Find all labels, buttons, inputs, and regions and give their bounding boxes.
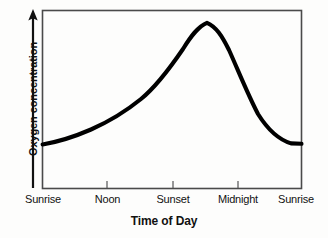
x-tick-label-sunrise-start: Sunrise: [12, 192, 74, 206]
oxygen-concentration-chart: Oxygen concentration Sunrise Noon Sunset…: [0, 0, 328, 238]
x-tick-label-midnight: Midnight: [205, 192, 271, 206]
oxygen-concentration-curve: [43, 23, 302, 145]
y-axis-label: Oxygen concentration: [26, 14, 40, 184]
x-tick-label-noon: Noon: [80, 192, 135, 206]
plot-frame: [43, 11, 302, 189]
x-tick-label-sunrise-end: Sunrise: [265, 192, 327, 206]
x-axis-label: Time of Day: [0, 214, 328, 229]
x-axis-ticks: [107, 181, 238, 188]
x-tick-label-sunset: Sunset: [144, 192, 202, 206]
